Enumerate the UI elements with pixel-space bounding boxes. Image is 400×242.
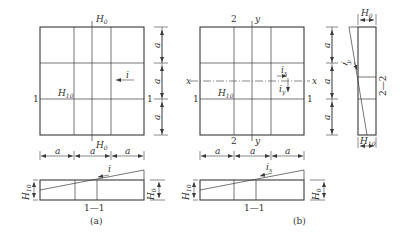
section-title: 1—1 (244, 203, 264, 213)
svg-text:a: a (125, 146, 130, 156)
svg-text:a: a (90, 146, 95, 156)
H0-width-label: H0 (360, 8, 373, 19)
svg-text:ix: ix (266, 162, 273, 173)
caption-b: (b) (293, 216, 306, 226)
svg-text:a: a (322, 79, 332, 84)
svg-text:a: a (322, 43, 332, 48)
bottom-H0-label: H0 (95, 140, 108, 151)
svg-text:a: a (152, 79, 162, 84)
section-1-1-a: i H10 H0 1—1 (21, 164, 165, 213)
H10-label: H10 (57, 88, 74, 99)
vertical-dimensions-b: a a a (322, 27, 338, 135)
H10-height-label: H10 (21, 184, 32, 201)
section-mark-2-top: 2 (231, 14, 237, 24)
slope-iy-label: iy (279, 84, 286, 96)
svg-text:a: a (322, 115, 332, 120)
horizontal-dimensions-a: a a a (40, 146, 144, 160)
section-mark-1-right: 1 (307, 94, 313, 104)
section-mark-1-right: 1 (147, 94, 153, 104)
x-axis-right-label: x (312, 76, 317, 86)
svg-text:i: i (108, 164, 111, 174)
section-title-2-2: 2—2 (378, 76, 388, 96)
svg-text:a: a (285, 146, 290, 156)
H10-height-label: H10 (181, 184, 192, 201)
section-1-1-b: ix H10 H0 1—1 (181, 162, 325, 213)
slope-ix-label: ix (281, 65, 288, 76)
svg-text:a: a (152, 115, 162, 120)
slope-iy-arrow-icon (354, 62, 357, 70)
y-axis-top-label: y (254, 14, 261, 24)
vertical-dimensions-a: a a a (152, 27, 168, 135)
section-2-2: H0 H10 iy 2—2 (339, 8, 388, 148)
H10-width-label: H10 (359, 136, 376, 147)
H10-label: H10 (217, 88, 234, 99)
section-mark-2-bottom: 2 (231, 136, 237, 146)
horizontal-dimensions-b: a a a (200, 146, 304, 160)
H0-height-label: H0 (311, 188, 322, 201)
svg-text:a: a (215, 146, 220, 156)
panel-b: 2 y 2 y x x H10 1 1 ix iy a a a (181, 8, 388, 226)
caption-a: (a) (90, 216, 102, 226)
slab-slope-diagram: H0 H0 H10 1 1 i a a a (0, 0, 400, 242)
panel-a: H0 H0 H10 1 1 i a a a (21, 14, 168, 226)
section-mark-1-left: 1 (33, 94, 39, 104)
section-mark-1-left: 1 (193, 94, 199, 104)
svg-text:a: a (152, 43, 162, 48)
plan-view-b: 2 y 2 y x x H10 1 1 ix iy (186, 14, 317, 146)
slope-arrow-icon (260, 173, 272, 176)
svg-text:iy: iy (339, 57, 353, 68)
svg-text:a: a (55, 146, 60, 156)
slope-i-label: i (126, 70, 129, 80)
svg-text:a: a (250, 146, 255, 156)
top-H0-label: H0 (95, 14, 108, 25)
H0-height-label: H0 (146, 188, 157, 201)
plan-view-a: H0 H0 H10 1 1 i (33, 14, 153, 151)
x-axis-left-label: x (186, 76, 191, 86)
section-title: 1—1 (84, 203, 104, 213)
y-axis-bottom-label: y (254, 136, 261, 146)
